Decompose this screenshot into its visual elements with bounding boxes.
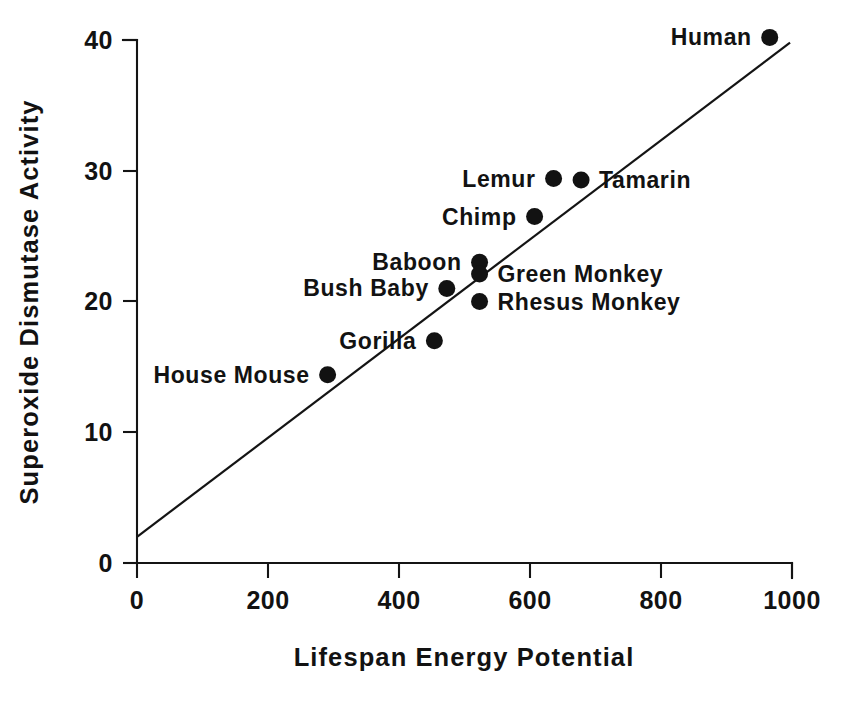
plot-canvas: 0 10 20 30 40 0 200 400 600 800 1000 Lif… <box>0 0 848 702</box>
data-point <box>426 332 443 349</box>
x-axis-title: Lifespan Energy Potential <box>294 643 635 671</box>
data-point-label: Chimp <box>442 204 517 230</box>
data-point <box>471 293 488 310</box>
x-tick-label-0: 0 <box>130 586 144 614</box>
data-point <box>761 29 778 46</box>
data-points-group: House MouseGorillaBush BabyBaboonGreen M… <box>153 24 778 387</box>
y-axis-ticks <box>123 40 137 563</box>
data-point <box>438 280 455 297</box>
data-point-label: House Mouse <box>153 362 309 388</box>
x-tick-label-600: 600 <box>508 586 551 614</box>
y-tick-label-30: 30 <box>84 157 113 185</box>
data-point <box>319 366 336 383</box>
y-axis-tick-labels: 0 10 20 30 40 <box>84 26 113 577</box>
data-point-label: Bush Baby <box>303 275 429 301</box>
data-point <box>545 170 562 187</box>
x-axis-tick-labels: 0 200 400 600 800 1000 <box>130 586 821 614</box>
trend-line <box>137 43 790 537</box>
y-axis-title: Superoxide Dismutase Activity <box>15 99 43 504</box>
y-tick-label-10: 10 <box>84 418 113 446</box>
data-point-label: Human <box>671 24 752 50</box>
x-tick-label-400: 400 <box>377 586 420 614</box>
x-tick-label-1000: 1000 <box>763 586 821 614</box>
x-tick-label-800: 800 <box>639 586 682 614</box>
data-point-label: Lemur <box>462 166 535 192</box>
data-point <box>526 208 543 225</box>
y-tick-label-0: 0 <box>99 549 113 577</box>
data-point-label: Green Monkey <box>498 261 664 287</box>
data-point-label: Tamarin <box>599 167 691 193</box>
data-point-label: Rhesus Monkey <box>498 289 681 315</box>
x-axis-ticks <box>137 563 792 578</box>
data-point-label: Gorilla <box>339 328 416 354</box>
scatter-plot-figure: 0 10 20 30 40 0 200 400 600 800 1000 Lif… <box>0 0 848 702</box>
y-tick-label-20: 20 <box>84 287 113 315</box>
data-point-label: Baboon <box>372 249 461 275</box>
x-tick-label-200: 200 <box>246 586 289 614</box>
data-point <box>573 171 590 188</box>
data-point <box>471 266 488 283</box>
y-tick-label-40: 40 <box>84 26 113 54</box>
